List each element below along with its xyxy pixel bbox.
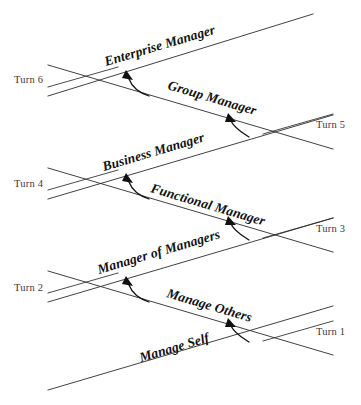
stage-label-manage-self: Manage Self xyxy=(137,330,213,366)
turn-label-turn-1: Turn 1 xyxy=(316,326,345,337)
stage-label-business-manager: Business Manager xyxy=(100,129,207,174)
line-business-manager xyxy=(48,115,333,199)
turn-label-turn-4: Turn 4 xyxy=(14,178,44,189)
turn-2-tick xyxy=(48,273,118,293)
arrow-head-icon xyxy=(225,113,236,122)
stage-label-enterprise-manager: Enterprise Manager xyxy=(102,22,218,69)
turn-label-turn-6: Turn 6 xyxy=(14,74,43,85)
arrow-functional-to-business xyxy=(122,173,149,199)
pipeline-canvas: Enterprise Manager Group Manager Busines… xyxy=(0,0,361,405)
arrow-business-to-group xyxy=(225,113,249,137)
stage-label-group-manager: Group Manager xyxy=(166,77,259,118)
turn-6-tick xyxy=(48,67,118,87)
leadership-pipeline-diagram: Enterprise Manager Group Manager Busines… xyxy=(0,0,361,405)
descending-lines-group xyxy=(48,65,333,355)
arrow-others-to-manager-of-managers xyxy=(122,276,149,302)
turn-label-turn-2: Turn 2 xyxy=(14,282,43,293)
turn-label-turn-3: Turn 3 xyxy=(316,223,345,234)
stage-label-functional-manager: Functional Manager xyxy=(148,180,267,228)
turn-label-turn-5: Turn 5 xyxy=(316,119,345,130)
arrow-group-to-enterprise xyxy=(122,70,149,96)
